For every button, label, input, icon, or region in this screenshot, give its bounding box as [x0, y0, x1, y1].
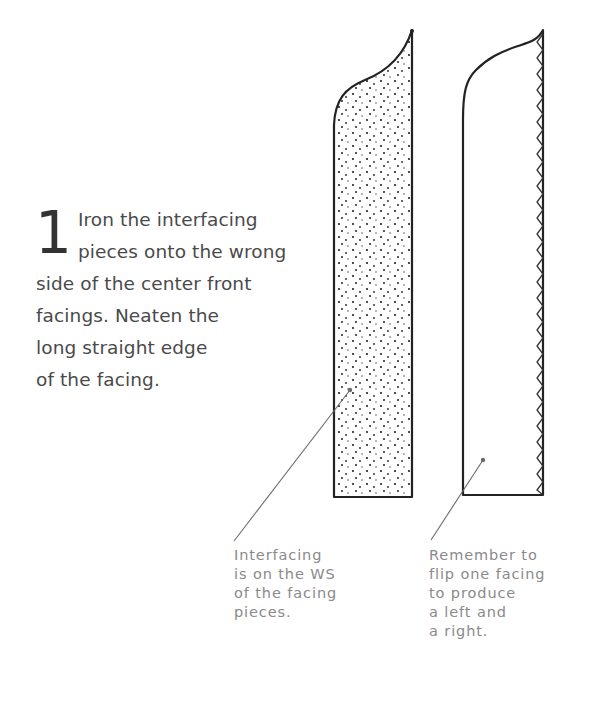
- interfaced-facing-piece: [334, 29, 414, 497]
- neatened-facing-piece: [463, 30, 543, 495]
- caption-flip-facing: Remember to flip one facing to produce a…: [429, 546, 545, 641]
- leader-line-flip: [431, 458, 485, 540]
- caption-interfacing: Interfacing is on the WS of the facing p…: [234, 546, 337, 622]
